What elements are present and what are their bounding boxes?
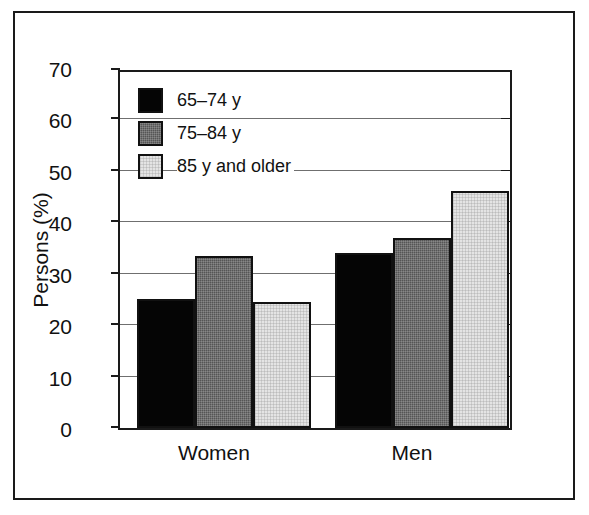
y-tick-70 [111,68,120,70]
x-category-label-women: Women [118,441,310,465]
y-tick-right-60 [501,118,510,119]
legend-label-65-74: 65–74 y [177,90,244,111]
legend-label-85-and-older: 85 y and older [177,156,294,177]
bar-women-85-and-older[interactable] [253,302,311,428]
y-tick-0 [111,426,120,428]
legend: 65–74 y 75–84 y 85 y and older [138,84,338,183]
legend-swatch-dark-gray [138,121,163,146]
legend-label-75-84: 75–84 y [177,123,244,144]
bar-women-65-74[interactable] [137,299,195,428]
x-category-label-men: Men [316,441,508,465]
y-tick-label-40: 40 [12,213,72,234]
y-tick-label-50: 50 [12,162,72,183]
bar-men-85-and-older[interactable] [451,191,509,428]
bar-men-75-84[interactable] [393,238,451,428]
y-tick-label-0: 0 [12,419,72,440]
y-tick-label-10: 10 [12,368,72,389]
y-tick-60 [111,117,120,119]
legend-swatch-black [138,88,163,113]
plot-area: 65–74 y 75–84 y 85 y and older [118,70,512,430]
y-tick-30 [111,272,120,274]
y-tick-label-20: 20 [12,316,72,337]
y-tick-50 [111,169,120,171]
bar-women-75-84[interactable] [195,256,253,428]
y-tick-right-50 [501,170,510,171]
legend-swatch-light-gray [138,154,163,179]
bar-men-65-74[interactable] [335,253,393,428]
y-axis-title: Persons (%) [29,192,53,308]
y-tick-label-60: 60 [12,110,72,131]
legend-item-75-84[interactable]: 75–84 y [138,117,338,150]
y-tick-label-70: 70 [12,59,72,80]
legend-item-65-74[interactable]: 65–74 y [138,84,338,117]
legend-item-85-and-older[interactable]: 85 y and older [138,150,338,183]
y-tick-20 [111,323,120,325]
y-tick-40 [111,220,120,222]
y-tick-10 [111,375,120,377]
y-tick-label-30: 30 [12,265,72,286]
